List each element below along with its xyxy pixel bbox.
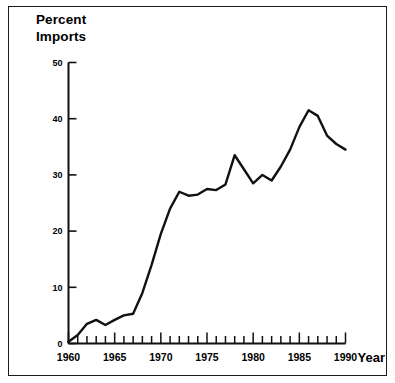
- x-axis-title: Year: [358, 350, 385, 365]
- y-axis-tick-label: 10: [52, 283, 62, 293]
- x-axis-tick-label: 1965: [103, 351, 127, 363]
- x-axis-tick-label: 1975: [195, 351, 219, 363]
- chart-figure: Percent Imports 01020304050 196019651970…: [0, 0, 395, 383]
- x-axis: 1960196519701975198019851990: [57, 333, 358, 363]
- y-axis-tick-label: 30: [52, 170, 62, 180]
- data-line-percent-imports: [69, 110, 346, 342]
- y-axis-tick-label: 0: [57, 339, 62, 349]
- y-axis-tick-label: 40: [52, 114, 62, 124]
- x-axis-tick-label: 1980: [241, 351, 265, 363]
- x-axis-title-group: Year: [358, 350, 385, 365]
- x-axis-tick-label: 1960: [57, 351, 81, 363]
- y-axis: 01020304050: [52, 58, 76, 349]
- x-axis-tick-label: 1985: [288, 351, 312, 363]
- y-axis-tick-label: 50: [52, 58, 62, 68]
- y-axis-tick-label: 20: [52, 226, 62, 236]
- x-axis-tick-label: 1990: [334, 351, 358, 363]
- line-chart-plot: 01020304050 1960196519701975198019851990…: [0, 0, 395, 383]
- x-axis-tick-label: 1970: [149, 351, 173, 363]
- data-series-group: [69, 110, 346, 342]
